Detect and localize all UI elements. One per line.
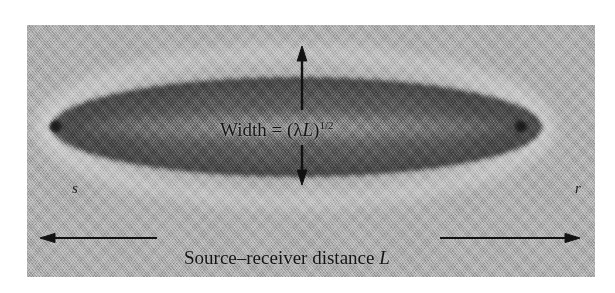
figure-panel: s r Width = — [27, 25, 595, 277]
distance-length-var: L — [379, 247, 390, 268]
source-point-marker — [49, 120, 62, 133]
lambda-symbol: λ — [293, 119, 302, 140]
width-formula-exponent: 1/2 — [319, 119, 333, 131]
receiver-point-marker — [514, 120, 527, 133]
halftone-texture-overlay — [27, 25, 595, 277]
receiver-label: r — [575, 180, 581, 197]
distance-caption-label: Source–receiver distance L — [184, 247, 390, 269]
width-formula-label: Width = (λL)1/2 — [220, 119, 333, 141]
source-label: s — [72, 180, 78, 197]
width-formula-length-var: L — [303, 119, 314, 140]
width-arrow — [27, 25, 595, 277]
width-formula-prefix: Width = ( — [220, 119, 293, 140]
fresnel-zone-figure: s r Width = — [0, 0, 615, 293]
source-receiver-distance-arrow — [27, 25, 595, 277]
distance-caption-text: Source–receiver distance — [184, 247, 374, 268]
halftone-texture-overlay-secondary — [27, 25, 595, 277]
